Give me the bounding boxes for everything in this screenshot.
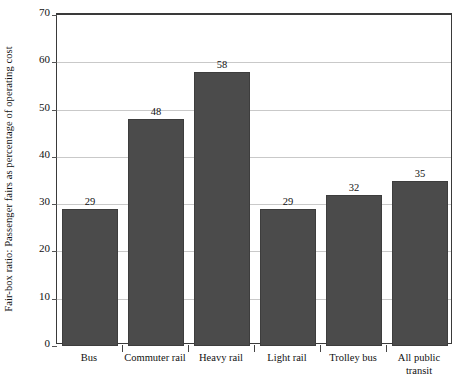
bar-value-label: 35 bbox=[390, 168, 450, 179]
bar-value-label: 32 bbox=[324, 182, 384, 193]
plot-area: 294858293235 bbox=[56, 13, 452, 344]
y-axis-tick-label: 10 bbox=[18, 291, 54, 302]
bar bbox=[392, 181, 448, 347]
x-axis-category-label-line: All public bbox=[386, 352, 452, 365]
x-axis-category-label-line: Trolley bus bbox=[320, 352, 386, 365]
x-axis-category-label-line: transit bbox=[386, 365, 452, 378]
y-axis-tick-label: 60 bbox=[18, 54, 54, 65]
x-axis-category-label: Heavy rail bbox=[188, 352, 254, 365]
y-axis-tick-label: 30 bbox=[18, 196, 54, 207]
x-axis-category-label: Light rail bbox=[254, 352, 320, 365]
y-axis-title-text: Fair-box ratio: Passenger fairs as perce… bbox=[3, 46, 14, 312]
y-axis-tick-label: 40 bbox=[18, 149, 54, 160]
y-axis-title: Fair-box ratio: Passenger fairs as perce… bbox=[0, 13, 16, 344]
y-axis-tick-label: 50 bbox=[18, 102, 54, 113]
y-axis-tick-mark bbox=[52, 346, 57, 347]
bar bbox=[260, 209, 316, 346]
x-axis-category-label-line: Light rail bbox=[254, 352, 320, 365]
x-axis-category-label: Bus bbox=[56, 352, 122, 365]
x-axis-tick-mark bbox=[320, 345, 321, 352]
x-axis-tick-mark bbox=[254, 345, 255, 352]
x-axis-category-label: Trolley bus bbox=[320, 352, 386, 365]
y-axis-tick-label: 20 bbox=[18, 243, 54, 254]
bar-value-label: 29 bbox=[60, 196, 120, 207]
x-axis-tick-mark bbox=[386, 345, 387, 352]
x-axis-tick-mark bbox=[122, 345, 123, 352]
bar bbox=[194, 72, 250, 346]
x-axis-category-label-line: Commuter rail bbox=[122, 352, 188, 365]
x-axis-tick-mark bbox=[188, 345, 189, 352]
x-axis-category-label: Commuter rail bbox=[122, 352, 188, 365]
x-axis-category-label-line: Heavy rail bbox=[188, 352, 254, 365]
bar bbox=[326, 195, 382, 346]
y-axis-tick-label: 70 bbox=[18, 7, 54, 18]
bar-value-label: 48 bbox=[126, 106, 186, 117]
x-axis-category-label-line: Bus bbox=[56, 352, 122, 365]
bar-chart: Fair-box ratio: Passenger fairs as perce… bbox=[0, 0, 462, 387]
bars-layer: 294858293235 bbox=[57, 15, 451, 343]
y-axis-tick-labels: 706050403020100 bbox=[18, 0, 54, 387]
y-axis-tick-label: 0 bbox=[18, 338, 54, 349]
bar bbox=[62, 209, 118, 346]
bar bbox=[128, 119, 184, 346]
x-axis-category-label: All publictransit bbox=[386, 352, 452, 377]
bar-value-label: 29 bbox=[258, 196, 318, 207]
bar-value-label: 58 bbox=[192, 59, 252, 70]
